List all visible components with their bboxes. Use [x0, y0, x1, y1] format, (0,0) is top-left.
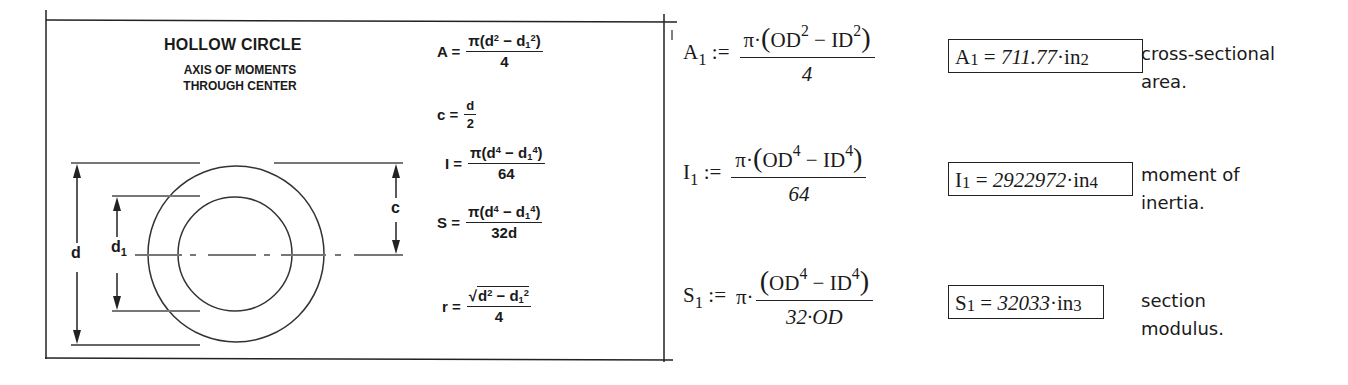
- calc-area-definition: A1 := π·(OD2 − ID2) 4: [683, 22, 875, 87]
- calc-area-result: A1 = 711.77·in2: [948, 39, 1143, 73]
- calc-moment-of-inertia-note: moment of inertia.: [1141, 161, 1240, 217]
- radical-icon: √: [469, 287, 477, 304]
- calc-moment-of-inertia-definition: I1 := π·(OD4 − ID4) 64: [683, 142, 866, 207]
- hollow-circle-diagram: [0, 0, 680, 385]
- figure-subtitle-line1: AXIS OF MOMENTS: [150, 62, 330, 78]
- calc-section-modulus-result: S1 = 32033·in3: [948, 285, 1104, 319]
- figure-subtitle: AXIS OF MOMENTS THROUGH CENTER: [150, 62, 330, 94]
- label-d1: d1: [111, 238, 127, 258]
- calc-section-modulus-definition: S1 := π· (OD4 − ID4) 32·OD: [683, 265, 873, 330]
- formula-radius-of-gyration: r = √d2 − d12 4: [442, 287, 531, 325]
- label-d1-base: d: [111, 238, 121, 255]
- hollow-circle-reference-figure: HOLLOW CIRCLE AXIS OF MOMENTS THROUGH CE…: [0, 0, 680, 385]
- formula-area-lhs: A =: [437, 43, 460, 60]
- calc-area-note: cross-sectional area.: [1141, 40, 1275, 96]
- label-d1-sub: 1: [121, 246, 127, 258]
- formula-area-fraction: π(d2 − d12) 4: [466, 32, 542, 70]
- label-d: d: [71, 244, 81, 262]
- formula-section-modulus: S = π(d4 − d14) 32d: [437, 203, 542, 241]
- formula-c: c = d 2: [437, 98, 476, 131]
- figure-subtitle-line2: THROUGH CENTER: [150, 78, 330, 94]
- formula-c-fraction: d 2: [464, 98, 476, 131]
- formula-c-lhs: c =: [437, 106, 458, 123]
- formula-area: A = π(d2 − d12) 4: [437, 32, 543, 70]
- label-c: c: [391, 199, 400, 217]
- formula-moment-of-inertia: I = π(d4 − d14) 64: [445, 144, 545, 182]
- calc-section-modulus-note: section modulus.: [1141, 287, 1224, 343]
- figure-title: HOLLOW CIRCLE: [164, 36, 302, 54]
- calc-moment-of-inertia-result: I1 = 2922972·in4: [948, 162, 1133, 196]
